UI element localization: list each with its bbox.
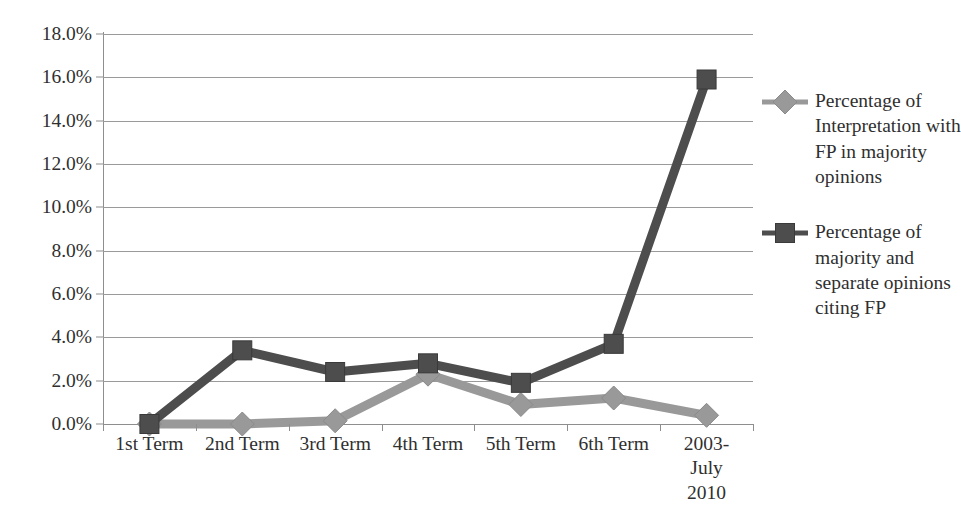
data-point-marker xyxy=(776,224,795,243)
y-axis-tick-label: 14.0% xyxy=(0,111,92,131)
x-axis-category-label: 6th Term xyxy=(579,432,649,456)
y-axis-tick-mark xyxy=(96,120,103,121)
x-axis-category-label: 3rd Term xyxy=(299,432,370,456)
y-axis-tick-label: 6.0% xyxy=(0,284,92,304)
legend-entry[interactable]: Percentage of majority and separate opin… xyxy=(762,219,961,320)
y-axis-tick-mark xyxy=(96,34,103,35)
x-axis-tick-mark xyxy=(196,424,197,431)
y-axis-labels: 18.0%16.0%14.0%12.0%10.0%8.0%6.0%4.0%2.0… xyxy=(0,0,100,506)
data-point-marker xyxy=(773,90,797,114)
x-axis-tick-mark xyxy=(753,424,754,431)
data-point-marker xyxy=(602,386,626,410)
data-point-marker xyxy=(326,363,345,382)
chart-container: 18.0%16.0%14.0%12.0%10.0%8.0%6.0%4.0%2.0… xyxy=(0,0,961,506)
x-axis-category-label: 5th Term xyxy=(486,432,556,456)
x-axis-category-label: 1st Term xyxy=(115,432,183,456)
y-axis-tick-mark xyxy=(96,164,103,165)
x-axis-tick-mark xyxy=(474,424,475,431)
y-axis-tick-label: 18.0% xyxy=(0,24,92,44)
legend-square-marker-icon xyxy=(762,221,808,245)
series-layer xyxy=(103,34,753,424)
x-axis-tick-mark xyxy=(382,424,383,431)
plot-area xyxy=(103,34,753,424)
x-axis-tick-mark xyxy=(567,424,568,431)
data-point-marker xyxy=(140,415,159,434)
y-axis-tick-mark xyxy=(96,294,103,295)
y-axis-tick-label: 8.0% xyxy=(0,241,92,261)
y-axis-tick-label: 0.0% xyxy=(0,414,92,434)
legend-entry[interactable]: Percentage of Interpretation with FP in … xyxy=(762,88,961,189)
data-point-marker xyxy=(511,373,530,392)
y-axis-tick-mark xyxy=(96,77,103,78)
chart-legend: Percentage of Interpretation with FP in … xyxy=(762,88,961,351)
data-point-marker xyxy=(419,354,438,373)
x-axis-category-label: 2nd Term xyxy=(205,432,280,456)
y-axis-tick-label: 4.0% xyxy=(0,328,92,348)
x-axis-tick-mark xyxy=(103,424,104,431)
y-axis-tick-mark xyxy=(96,380,103,381)
y-axis-tick-mark xyxy=(96,250,103,251)
legend-label: Percentage of Interpretation with FP in … xyxy=(815,88,961,189)
data-point-marker xyxy=(233,341,252,360)
y-axis-tick-label: 16.0% xyxy=(0,68,92,88)
data-point-marker xyxy=(509,393,533,417)
x-axis-category-label: 4th Term xyxy=(393,432,463,456)
y-axis-tick-label: 10.0% xyxy=(0,198,92,218)
x-axis-tick-mark xyxy=(660,424,661,431)
y-axis-tick-mark xyxy=(96,424,103,425)
x-axis-tick-mark xyxy=(289,424,290,431)
y-axis-tick-mark xyxy=(96,207,103,208)
x-axis-category-label: 2003-July 2010 xyxy=(683,432,729,505)
legend-diamond-marker-icon xyxy=(762,90,808,114)
y-axis-tick-mark xyxy=(96,337,103,338)
data-point-marker xyxy=(604,334,623,353)
x-axis-labels: 1st Term2nd Term3rd Term4th Term5th Term… xyxy=(103,432,753,502)
y-axis-tick-label: 2.0% xyxy=(0,371,92,391)
data-point-marker xyxy=(695,403,719,427)
y-axis-tick-label: 12.0% xyxy=(0,154,92,174)
data-point-marker xyxy=(697,70,716,89)
legend-label: Percentage of majority and separate opin… xyxy=(815,219,961,320)
